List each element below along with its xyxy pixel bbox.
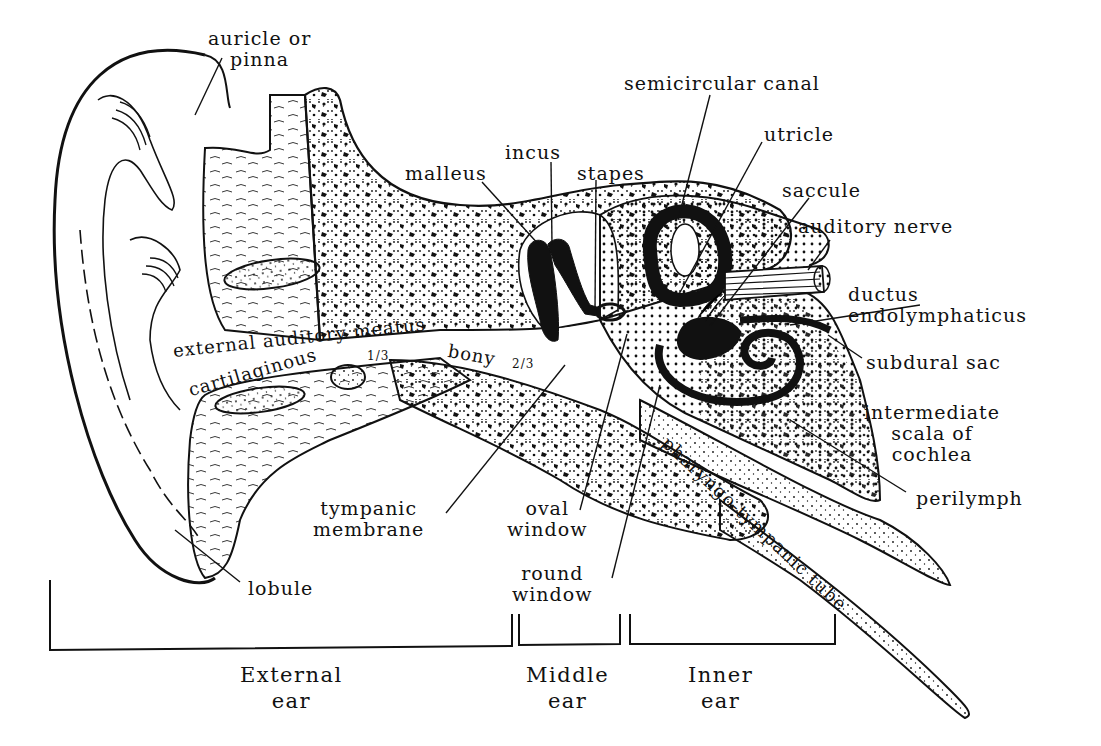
label-incus: incus (505, 142, 561, 163)
label-cartilaginous-fraction: 1/3 (367, 349, 389, 363)
label-auditory-nerve: auditory nerve (798, 216, 953, 237)
region-brackets (50, 580, 835, 650)
label-saccule: saccule (782, 180, 861, 201)
region-label-external-ear: External ear (240, 662, 343, 714)
ear-illustration (0, 0, 1101, 746)
label-intermediate-scala-of-cochlea: intermediate scala of cochlea (864, 402, 1000, 465)
cartilage-upper (203, 95, 320, 340)
label-round-window: round window (512, 563, 592, 605)
label-perilymph: perilymph (916, 488, 1023, 509)
label-stapes: stapes (577, 163, 645, 184)
label-subdural-sac: subdural sac (866, 352, 1001, 373)
bracket-middle-ear (519, 614, 620, 645)
label-lobule: lobule (248, 578, 313, 599)
label-bony-fraction: 2/3 (512, 357, 534, 371)
label-ductus-endolymphaticus: ductus endolymphaticus (848, 284, 1027, 326)
label-semicircular-canal: semicircular canal (624, 73, 820, 94)
region-label-inner-ear: Inner ear (688, 662, 753, 714)
label-malleus: malleus (405, 163, 487, 184)
label-auricle: auricle or pinna (208, 28, 311, 70)
ear-anatomy-diagram: auricle or pinna malleus incus stapes se… (0, 0, 1101, 746)
label-utricle: utricle (764, 124, 834, 145)
label-tympanic-membrane: tympanic membrane (313, 498, 424, 540)
bracket-inner-ear (630, 614, 835, 644)
label-oval-window: oval window (507, 498, 587, 540)
region-label-middle-ear: Middle ear (526, 662, 609, 714)
